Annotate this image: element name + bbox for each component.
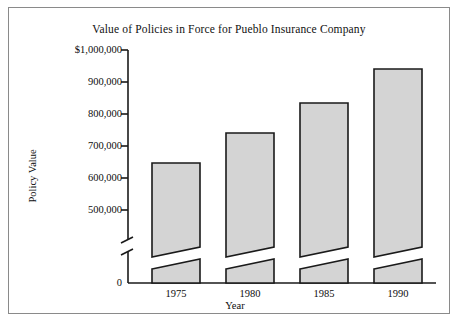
bar-1975	[152, 163, 200, 283]
plot-area	[0, 0, 458, 322]
y-axis	[121, 50, 133, 283]
y-axis-ticks	[121, 50, 128, 210]
bar-1985	[300, 103, 348, 283]
axis-break-lower-mark	[121, 249, 133, 255]
bar-1990	[374, 69, 422, 283]
chart-figure: Value of Policies in Force for Pueblo In…	[0, 0, 458, 322]
bar-1980	[226, 133, 274, 283]
axis-break-upper-mark	[121, 237, 133, 243]
